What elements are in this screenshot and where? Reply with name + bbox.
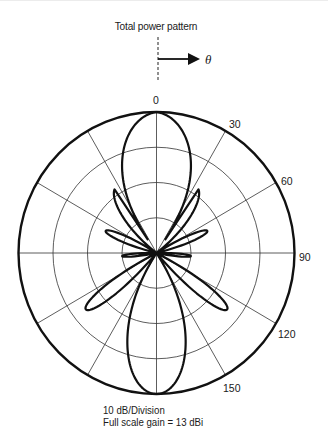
angle-label-150: 150 [223,382,241,394]
angle-label-120: 120 [278,328,296,340]
arrow-right-icon [188,53,200,65]
angle-label-0: 0 [153,94,159,106]
direction-indicator: θ [158,37,212,81]
angle-label-90: 90 [299,251,311,263]
full-scale-gain-label: Full scale gain = 13 dBi [103,416,203,428]
polar-chart: θ 0306090120150 [0,0,328,446]
scale-division-label: 10 dB/Division [103,404,203,416]
angle-label-60: 60 [281,175,293,187]
chart-footnote: 10 dB/Division Full scale gain = 13 dBi [103,404,203,428]
angle-labels: 0306090120150 [153,94,311,394]
angle-label-30: 30 [229,118,241,130]
theta-symbol: θ [205,52,212,67]
